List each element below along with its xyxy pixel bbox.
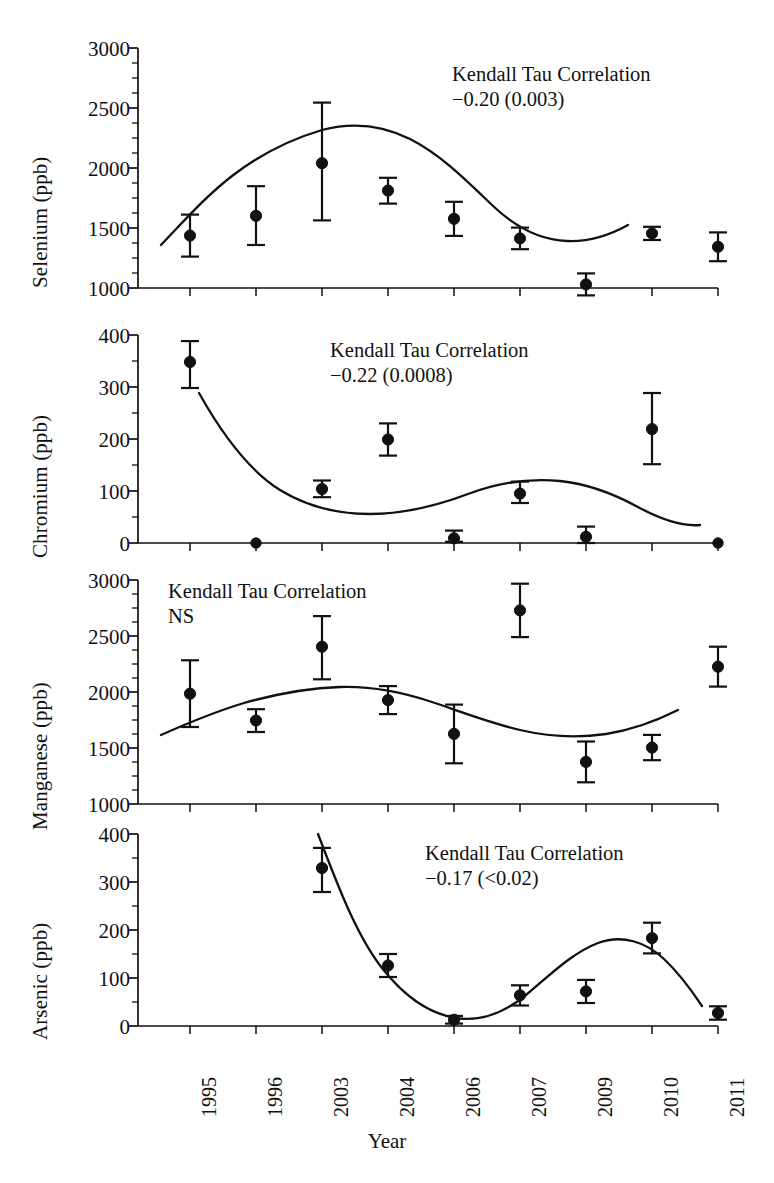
datapoint-2003: [313, 103, 331, 221]
datapoint-2009: [577, 980, 595, 1003]
xtick-2010: 2010: [660, 1077, 683, 1117]
datapoint-2009: [577, 273, 595, 295]
x-ticks-arsenic: [190, 1026, 718, 1034]
panel-manganese: Manganese (ppb) Kendall Tau CorrelationN…: [0, 575, 774, 825]
plot-area-selenium: [0, 40, 774, 300]
data-series-manganese: [181, 584, 727, 783]
xtick-2009: 2009: [594, 1077, 617, 1117]
datapoint-2010: [643, 735, 661, 760]
figure-root: Selenium (ppb) Kendall Tau Correlation−0…: [0, 0, 774, 1183]
trend-curve-selenium: [161, 126, 628, 245]
datapoint-2010: [643, 923, 661, 954]
x-ticks-selenium: [190, 288, 718, 296]
datapoint-2006: [445, 705, 463, 764]
xtick-1995: 1995: [198, 1077, 221, 1117]
datapoint-2004: [379, 954, 397, 977]
trend-curve-arsenic: [318, 834, 702, 1019]
data-series-chromium: [181, 341, 723, 548]
axis-spines-arsenic: [138, 834, 718, 1026]
plot-area-manganese: [0, 575, 774, 825]
axis-spines-manganese: [138, 580, 718, 804]
datapoint-2006: [445, 202, 463, 236]
axis-spines-selenium: [138, 48, 718, 288]
datapoint-2004: [379, 423, 397, 455]
datapoint-2011: [709, 647, 727, 687]
xtick-2006: 2006: [462, 1077, 485, 1117]
datapoint-1996: [247, 186, 265, 245]
y-major-ticks-selenium: [129, 48, 138, 288]
datapoint-2003: [313, 848, 331, 892]
datapoint-2006: [445, 531, 463, 544]
datapoint-2004: [379, 178, 397, 204]
datapoint-2010: [643, 227, 661, 240]
datapoint-1996: [251, 538, 261, 548]
xtick-2003: 2003: [330, 1077, 353, 1117]
datapoint-2003: [313, 481, 331, 498]
xtick-2004: 2004: [396, 1077, 419, 1117]
data-series-selenium: [181, 103, 727, 296]
x-axis-title: Year: [0, 1129, 774, 1154]
panel-chromium: Chromium (ppb) Kendall Tau Correlation−0…: [0, 320, 774, 560]
y-major-ticks-arsenic: [129, 834, 138, 1026]
plot-area-chromium: [0, 320, 774, 560]
x-ticks-manganese: [190, 804, 718, 812]
xtick-2007: 2007: [528, 1077, 551, 1117]
datapoint-2010: [643, 393, 661, 464]
data-series-arsenic: [313, 848, 727, 1026]
datapoint-2009: [577, 742, 595, 783]
datapoint-2007: [511, 584, 529, 637]
datapoint-2011: [709, 232, 727, 261]
xtick-2011: 2011: [726, 1078, 749, 1117]
datapoint-1996: [247, 709, 265, 732]
y-major-ticks-chromium: [129, 335, 138, 543]
datapoint-1995: [181, 660, 199, 727]
trend-curve-chromium: [199, 393, 700, 525]
xtick-1996: 1996: [264, 1077, 287, 1117]
plot-area-arsenic: [0, 825, 774, 1045]
datapoint-1995: [181, 341, 199, 388]
y-major-ticks-manganese: [129, 580, 138, 804]
axis-spines-chromium: [138, 335, 718, 543]
datapoint-2009: [577, 527, 595, 543]
panel-arsenic: Arsenic (ppb) Kendall Tau Correlation−0.…: [0, 825, 774, 1045]
datapoint-2007: [511, 482, 529, 503]
panel-selenium: Selenium (ppb) Kendall Tau Correlation−0…: [0, 40, 774, 300]
trend-curve-manganese: [161, 687, 678, 736]
datapoint-2006: [445, 1014, 463, 1025]
datapoint-2003: [313, 616, 331, 679]
datapoint-2011: [709, 1006, 727, 1019]
datapoint-2011: [713, 538, 723, 548]
